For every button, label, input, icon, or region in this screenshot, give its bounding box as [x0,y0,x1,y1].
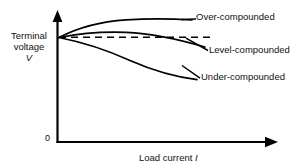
series-label-over-compounded: Over-compounded [196,11,275,22]
series-label-level-compounded: Level-compounded [209,44,290,55]
series-label-under-compounded: Under-compounded [201,71,285,82]
x-axis-label-text: Load current [139,152,192,163]
x-axis-arrowhead [265,137,278,147]
y-axis-symbol: V [2,52,56,63]
x-axis-label: Load current I [139,152,198,163]
leader-line-level [186,38,208,50]
y-axis-arrowhead [53,10,63,22]
y-axis-label-line1: Terminal [2,30,56,41]
y-axis-label-line2: voltage [2,41,56,52]
leader-line-under [182,66,200,79]
origin-tick-label: 0 [45,133,50,144]
curve-under-compounded [59,38,197,80]
x-axis-symbol: I [195,152,198,163]
y-axis-label: Terminal voltage V [2,30,56,63]
chart-figure: Terminal voltage V 0 Load current I Over… [0,0,307,168]
curve-level-compounded [59,32,205,47]
